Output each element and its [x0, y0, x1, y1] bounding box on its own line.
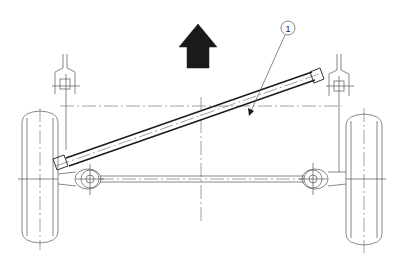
left-ball-joint [75, 164, 104, 195]
callout-label: 1 [285, 24, 290, 34]
right-mount-bracket [326, 54, 354, 172]
callout-leader [248, 35, 285, 116]
axle-diagram: 1 [0, 0, 399, 263]
right-wheel [346, 108, 386, 253]
diagonal-strut [53, 68, 324, 170]
right-ball-joint [299, 163, 328, 195]
left-wheel [18, 108, 58, 250]
forward-arrow-icon [179, 24, 217, 68]
left-mount-bracket [52, 54, 80, 150]
